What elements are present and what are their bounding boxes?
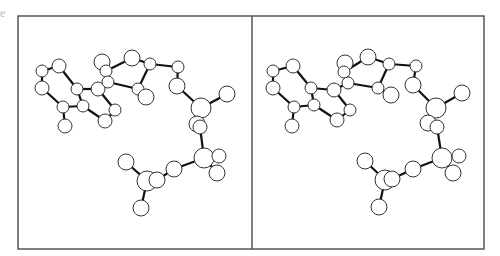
atom [149,172,165,188]
atom [133,200,149,216]
atom [338,66,350,78]
atom [405,161,421,177]
right-stereo-view [266,49,470,215]
atom [57,101,69,113]
atom [286,59,300,73]
molecule-canvas [0,0,500,256]
atom [432,148,452,168]
atom [169,78,185,94]
atom [124,50,140,66]
atom [172,61,184,73]
atom [71,83,83,95]
atom [102,76,114,88]
atom [219,86,235,102]
atom [166,161,182,177]
atom [308,99,320,111]
atom [194,148,214,168]
atom [383,58,395,70]
atom [342,77,354,89]
atom [371,199,387,215]
atom [100,65,112,77]
atom [36,65,48,77]
atom [430,120,444,134]
atom [52,59,66,73]
left-stereo-view [35,50,235,216]
atom [138,89,154,105]
atom [209,165,225,181]
atom [344,104,356,116]
atom [35,81,49,95]
atom [330,113,344,127]
atom [109,104,121,116]
atom [193,120,207,134]
atom [305,82,317,94]
atom [410,60,422,72]
atom [357,153,373,169]
atom [98,114,112,128]
atom [58,119,72,133]
atom [118,154,134,170]
atom [288,101,300,113]
atom [405,77,421,93]
figure-frame [18,16,484,249]
atom [285,119,299,133]
stereo-molecule-figure: e [0,0,500,256]
atom [191,98,211,118]
atom [452,149,466,163]
atom [454,85,470,101]
atom [383,87,399,103]
atom [212,149,226,163]
atom [267,65,279,77]
atom [327,83,341,97]
atom [360,49,376,65]
atom [144,58,156,70]
atom [372,82,384,94]
atom [266,81,280,95]
atom [77,100,89,112]
atom [445,165,461,181]
atom [384,171,400,187]
